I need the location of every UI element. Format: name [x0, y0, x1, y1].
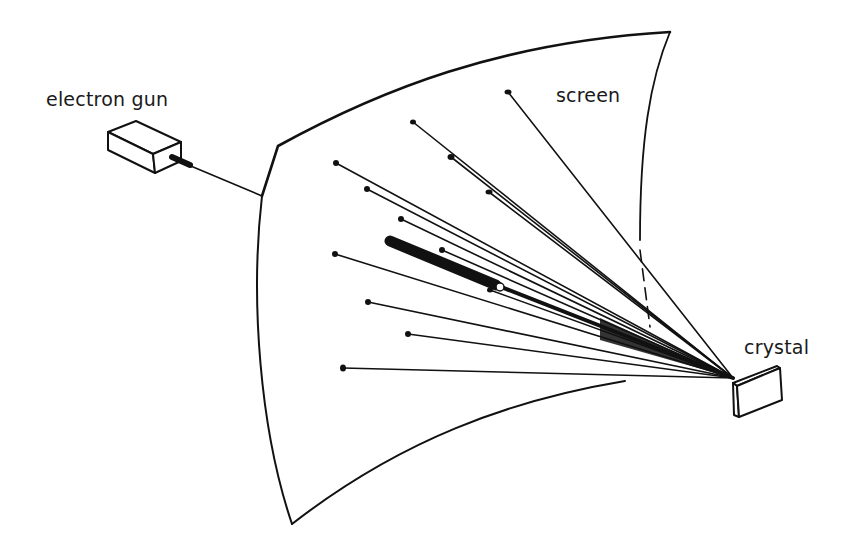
- diffracted-beams: [335, 92, 733, 378]
- electron-gun-icon: [108, 121, 262, 196]
- electron-gun-label: electron gun: [46, 88, 168, 110]
- crystal-icon: [733, 366, 782, 417]
- diffraction-spots: [332, 90, 512, 372]
- diffraction-diagram: [0, 0, 864, 553]
- screen-label: screen: [556, 84, 620, 106]
- crystal-label: crystal: [744, 336, 809, 358]
